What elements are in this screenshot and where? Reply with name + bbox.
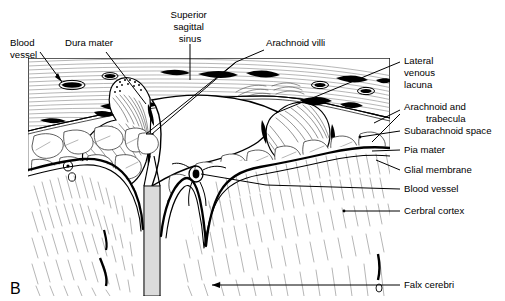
label-blood-vessel-cortex: Blood vessel xyxy=(404,183,458,194)
label-glial-membrane: Glial membrane xyxy=(404,164,472,175)
panel-label-b: B xyxy=(10,280,21,297)
label-falx-cerebri: Falx cerebri xyxy=(404,279,454,290)
leader-arachnoid-trabecula-a xyxy=(374,110,400,123)
leader-arachnoid-trabecula-b xyxy=(372,114,400,142)
anatomy-figure: Blood vessel Dura mater Superior sagitta… xyxy=(0,0,505,301)
label-superior-sagittal-sinus: Superior sagittal sinus xyxy=(171,9,210,44)
label-subarachnoid-space: Subarachnoid space xyxy=(404,125,491,136)
label-cerbral-cortex: Cerbral cortex xyxy=(404,205,464,216)
label-pia-mater: Pia mater xyxy=(404,144,446,155)
figure-page: Blood vessel Dura mater Superior sagitta… xyxy=(0,0,505,301)
label-lateral-venous-lacuna: Lateral venous lacuna xyxy=(404,55,438,90)
falx-striations xyxy=(146,186,158,296)
cerebral-cortex-left xyxy=(28,159,143,296)
label-arachnoid-and-trabecula: Arachnoid and trabecula xyxy=(404,101,469,124)
falx-cerebri xyxy=(144,156,160,296)
label-blood-vessel-top: Blood vessel xyxy=(10,37,37,60)
label-dura-mater: Dura mater xyxy=(65,37,114,48)
label-arachnoid-villi: Arachnoid villi xyxy=(266,37,325,48)
illustration-content xyxy=(28,58,392,296)
